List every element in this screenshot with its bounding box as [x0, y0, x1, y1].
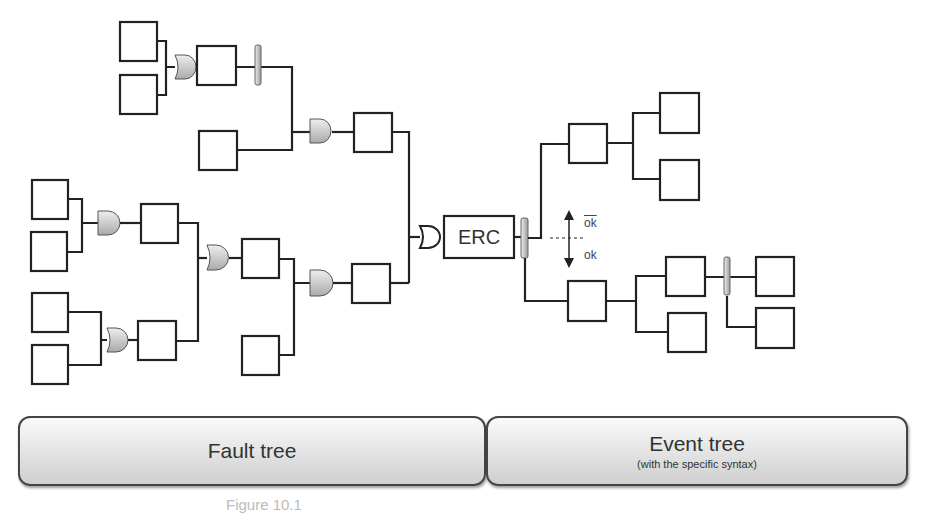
- fault-tree-title: Fault tree: [208, 439, 297, 463]
- figure-caption: Figure 10.1: [226, 496, 302, 513]
- fault-tree-section: Fault tree: [18, 416, 486, 486]
- event-tree-subtitle: (with the specific syntax): [637, 458, 757, 470]
- event-tree-title: Event tree: [649, 432, 745, 456]
- fault-tree-bottom-cluster: [31, 180, 409, 384]
- not-ok-label: ok: [584, 216, 597, 230]
- event-tree: [525, 93, 794, 352]
- event-tree-section: Event tree (with the specific syntax): [486, 416, 908, 486]
- ok-label: ok: [584, 248, 597, 262]
- erc-label: ERC: [444, 216, 514, 258]
